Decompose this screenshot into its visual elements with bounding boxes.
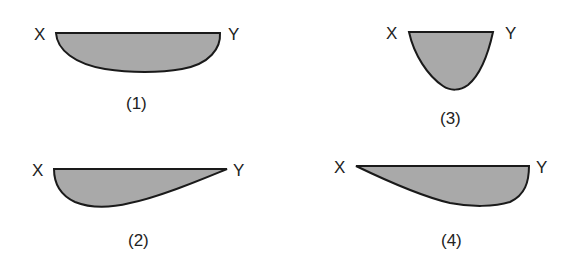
shape-2-area	[54, 169, 227, 207]
shape-4-caption: (4)	[441, 231, 462, 250]
shape-3-area	[409, 32, 493, 90]
shape-2-caption: (2)	[128, 231, 149, 250]
shape-3-x-label: X	[386, 24, 397, 43]
shape-1-caption: (1)	[126, 94, 147, 113]
shape-2: X Y (2)	[32, 161, 244, 250]
shape-1-y-label: Y	[228, 25, 239, 44]
shape-2-y-label: Y	[233, 161, 244, 180]
shape-4: X Y (4)	[334, 158, 547, 250]
shape-2-x-label: X	[32, 161, 43, 180]
shape-4-area	[356, 166, 529, 206]
shape-1-area	[56, 33, 220, 72]
shape-3-caption: (3)	[440, 109, 461, 128]
shape-4-y-label: Y	[536, 158, 547, 177]
shape-3-y-label: Y	[505, 24, 516, 43]
shape-3: X Y (3)	[386, 24, 516, 128]
shape-1: X Y (1)	[34, 25, 239, 113]
shape-1-x-label: X	[34, 25, 45, 44]
diagram-canvas: X Y (1) X Y (3) X Y (2) X Y (4)	[0, 0, 574, 273]
shape-4-x-label: X	[334, 158, 345, 177]
